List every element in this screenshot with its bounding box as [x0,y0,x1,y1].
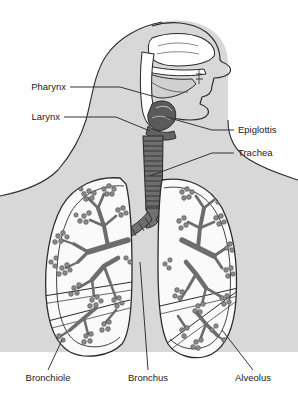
label-pharynx: Pharynx [31,81,66,92]
label-alveolus: Alveolus [235,372,271,383]
label-epiglottis: Epiglottis [238,124,277,135]
label-trachea: Trachea [238,147,273,158]
label-bronchiole: Bronchiole [26,372,71,383]
label-bronchus: Bronchus [128,372,168,383]
diagram-canvas: Pharynx Larynx Epiglottis Trachea Bronch… [0,0,298,402]
label-larynx: Larynx [31,111,60,122]
respiratory-system-diagram: Pharynx Larynx Epiglottis Trachea Bronch… [0,0,298,402]
larynx-structure [146,101,176,140]
